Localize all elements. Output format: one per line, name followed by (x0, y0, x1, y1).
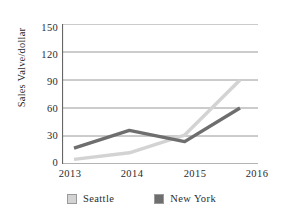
plot-area (62, 24, 258, 164)
x-tick-2013: 2013 (48, 168, 92, 179)
y-tick-60: 60 (24, 103, 58, 114)
y-tick-120: 120 (24, 49, 58, 60)
line-chart: Sales Valve/dollar 150 120 90 60 30 0 20… (0, 0, 283, 222)
series-line-new-york (74, 108, 240, 148)
legend-label-new-york: New York (170, 193, 216, 204)
legend-label-seattle: Seattle (83, 193, 114, 204)
x-tick-2016: 2016 (235, 168, 279, 179)
legend-item-new-york[interactable]: New York (154, 193, 216, 204)
y-tick-150: 150 (24, 22, 58, 33)
legend-swatch-new-york (154, 194, 164, 204)
y-axis-tick-labels: 150 120 90 60 30 0 (24, 0, 58, 222)
y-tick-0: 0 (24, 157, 58, 168)
x-tick-2014: 2014 (110, 168, 154, 179)
series-line-seattle (74, 80, 240, 159)
x-tick-2015: 2015 (173, 168, 217, 179)
y-tick-30: 30 (24, 130, 58, 141)
legend-swatch-seattle (67, 194, 77, 204)
chart-legend: Seattle New York (0, 193, 283, 204)
plot-svg (62, 24, 258, 164)
y-tick-90: 90 (24, 76, 58, 87)
legend-item-seattle[interactable]: Seattle (67, 193, 114, 204)
